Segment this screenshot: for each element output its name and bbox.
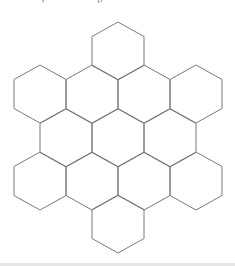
hexagon-cell bbox=[66, 65, 118, 123]
hexagon-cell bbox=[14, 65, 66, 123]
hexagon-grid bbox=[0, 0, 235, 266]
hexagon-cell bbox=[92, 195, 144, 253]
hexagon-cell bbox=[118, 65, 170, 123]
hexagon-cell bbox=[92, 109, 144, 167]
hexagon-cell bbox=[170, 65, 222, 123]
hexagon-cell bbox=[66, 152, 118, 210]
hexagon-cell bbox=[14, 152, 66, 210]
hexagon-cell bbox=[40, 109, 92, 167]
hexagon-cell bbox=[118, 152, 170, 210]
hexagon-cell bbox=[144, 109, 196, 167]
hexagon-cell bbox=[170, 152, 222, 210]
hexagon-cell bbox=[92, 22, 144, 80]
